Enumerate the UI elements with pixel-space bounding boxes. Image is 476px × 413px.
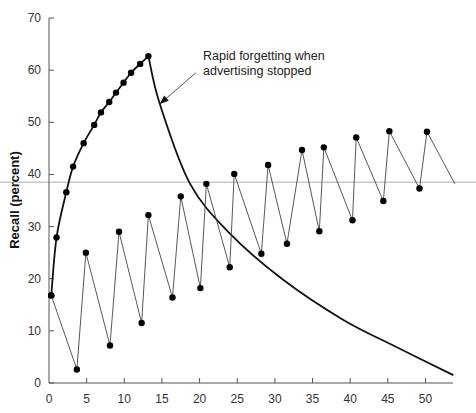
series	[48, 53, 455, 375]
x-tick-label: 45	[381, 392, 395, 406]
buildup-marker	[91, 122, 97, 128]
y-tick-label: 0	[34, 376, 41, 390]
pulsed-advertising-line	[51, 131, 455, 369]
pulsed-marker	[316, 228, 322, 234]
x-tick-label: 25	[231, 392, 245, 406]
y-tick-label: 70	[28, 11, 42, 25]
pulsed-marker	[321, 144, 327, 150]
pulsed-marker	[353, 134, 359, 140]
buildup-marker	[137, 61, 143, 67]
x-tick-label: 50	[419, 392, 433, 406]
y-tick-label: 20	[28, 272, 42, 286]
x-tick-label: 5	[83, 392, 90, 406]
annotation-line-1: Rapid forgetting when	[203, 49, 325, 63]
recall-chart: 01020304050607005101520253035404550 Reca…	[0, 0, 476, 413]
pulsed-marker	[299, 147, 305, 153]
y-tick-label: 50	[28, 115, 42, 129]
buildup-marker	[128, 70, 134, 76]
x-tick-label: 15	[155, 392, 169, 406]
pulsed-marker	[83, 249, 89, 255]
buildup-marker	[98, 109, 104, 115]
x-tick-label: 10	[118, 392, 132, 406]
pulsed-marker	[380, 198, 386, 204]
buildup-marker	[113, 89, 119, 95]
x-tick-label: 0	[46, 392, 53, 406]
pulsed-marker	[203, 181, 209, 187]
y-axis-label: Recall (percent)	[7, 151, 22, 249]
pulsed-marker	[416, 185, 422, 191]
pulsed-marker	[48, 292, 54, 298]
buildup-marker	[80, 140, 86, 146]
y-tick-label: 40	[28, 167, 42, 181]
x-tick-label: 35	[306, 392, 320, 406]
pulsed-marker	[74, 366, 80, 372]
pulsed-marker	[138, 320, 144, 326]
pulsed-marker	[227, 264, 233, 270]
pulsed-marker	[116, 229, 122, 235]
y-tick-label: 30	[28, 220, 42, 234]
y-axis-title: Recall (percent)	[7, 151, 22, 249]
x-tick-label: 20	[193, 392, 207, 406]
pulsed-marker	[424, 128, 430, 134]
pulsed-marker	[197, 285, 203, 291]
buildup-marker	[120, 79, 126, 85]
buildup-marker	[106, 99, 112, 105]
pulsed-marker	[169, 294, 175, 300]
pulsed-marker	[145, 212, 151, 218]
pulsed-marker	[231, 171, 237, 177]
pulsed-marker	[284, 241, 290, 247]
y-tick-label: 60	[28, 63, 42, 77]
pulsed-marker	[258, 250, 264, 256]
pulsed-marker	[386, 128, 392, 134]
pulsed-marker	[178, 193, 184, 199]
forgetting-curve	[148, 56, 453, 375]
buildup-marker	[53, 234, 59, 240]
annotation: Rapid forgetting when advertising stoppe…	[160, 49, 325, 104]
buildup-marker	[70, 163, 76, 169]
pulsed-marker	[349, 217, 355, 223]
buildup-curve	[51, 56, 148, 295]
pulsed-marker	[107, 342, 113, 348]
x-tick-label: 30	[268, 392, 282, 406]
x-tick-label: 40	[344, 392, 358, 406]
y-tick-label: 10	[28, 324, 42, 338]
pulsed-marker	[265, 162, 271, 168]
annotation-line-2: advertising stopped	[203, 64, 311, 78]
buildup-marker	[63, 189, 69, 195]
